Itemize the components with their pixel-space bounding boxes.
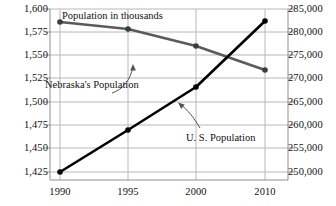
data-point	[57, 169, 63, 175]
chart-container: 1,600 1,575 1,550 1,525 1,500 1,475 1,45…	[0, 0, 336, 206]
chart-canvas	[0, 0, 336, 206]
x-tick-label-2010: 2010	[243, 186, 287, 197]
y-right-tick-label: 270,000	[288, 72, 323, 83]
y-right-tick-label: 250,000	[288, 166, 323, 177]
data-point	[262, 67, 268, 73]
data-point	[125, 127, 131, 133]
series-label-us: U. S. Population	[186, 132, 255, 144]
y-left-tick-label: 1,425	[2, 166, 48, 177]
y-right-tick-label: 255,000	[288, 142, 323, 153]
data-point	[125, 26, 131, 32]
y-right-tick-label: 275,000	[288, 49, 323, 60]
y-left-tick-label: 1,575	[2, 26, 48, 37]
x-tick-label-1995: 1995	[106, 186, 150, 197]
data-point	[193, 84, 199, 90]
y-left-tick-label: 1,450	[2, 142, 48, 153]
y-right-tick-label: 285,000	[288, 3, 323, 14]
y-left-tick-label: 1,600	[2, 3, 48, 14]
series-nebraska-population	[57, 19, 268, 73]
y-left-tick-label: 1,475	[2, 119, 48, 130]
y-left-tick-label: 1,500	[2, 96, 48, 107]
y-right-tick-label: 260,000	[288, 119, 323, 130]
series-us-population	[57, 18, 268, 175]
callout-arrow-us	[178, 103, 200, 129]
y-left-tick-label: 1,550	[2, 49, 48, 60]
series-label-nebraska: Nebraska's Population	[45, 79, 139, 91]
left-axis-title: Population in thousands	[62, 10, 163, 22]
y-right-tick-label: 280,000	[288, 26, 323, 37]
x-tick-label-1990: 1990	[38, 186, 82, 197]
data-point	[193, 43, 199, 49]
x-tick-label-2000: 2000	[174, 186, 218, 197]
y-left-tick-label: 1,525	[2, 72, 48, 83]
data-point	[262, 18, 268, 24]
y-right-tick-label: 265,000	[288, 96, 323, 107]
